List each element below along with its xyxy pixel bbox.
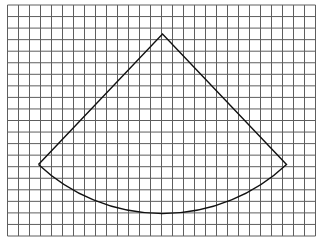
- grid-paper: [8, 5, 316, 236]
- grid-diagram: [0, 0, 317, 242]
- diagram-canvas: [0, 0, 317, 242]
